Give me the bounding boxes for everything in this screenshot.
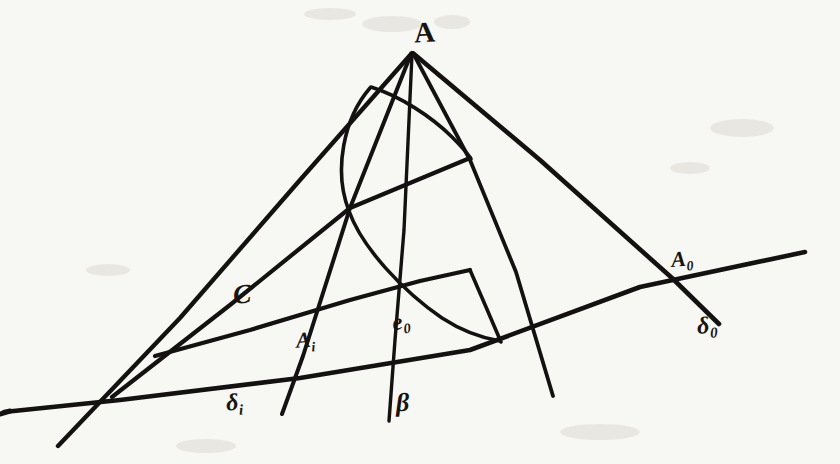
ray-apex-to-outer-point	[414, 54, 719, 324]
label-conic-tangent-e0: e0	[390, 309, 410, 334]
paper-smudges	[86, 8, 774, 453]
label-chord-c: C	[232, 280, 253, 309]
label-outer-point-sub: 0	[686, 258, 694, 274]
label-base-line-delta0: δ0	[696, 312, 717, 337]
secant-line-tail	[470, 270, 501, 342]
label-conic-tangent-base: e	[390, 309, 404, 335]
label-outer-point-a0: A0	[670, 247, 693, 271]
label-vertical-line-beta: β	[396, 390, 410, 416]
label-inner-point-base: A	[295, 327, 311, 353]
conic-arc-upper	[371, 87, 471, 159]
conic-arc-left	[342, 88, 500, 341]
ray-apex-vertical-beta	[389, 54, 412, 421]
label-inner-point-ai: Ai	[295, 328, 315, 351]
label-base-line-sub: 0	[710, 324, 719, 340]
label-base-line-base: δ	[696, 312, 710, 339]
label-apex-a: A	[413, 17, 435, 47]
label-inner-point-sub: i	[311, 339, 316, 354]
label-inner-line-base: δ	[225, 389, 239, 416]
label-inner-line-deltai: δi	[225, 390, 243, 415]
ray-apex-through-inner-point	[282, 54, 411, 414]
sketch-canvas: A C Ai e0 A0 δ0 δi β	[0, 0, 840, 464]
label-conic-tangent-sub: 0	[402, 320, 411, 337]
geometry-figure	[0, 0, 840, 464]
left-edge-tick	[0, 411, 10, 414]
label-inner-line-sub: i	[239, 402, 244, 418]
label-outer-point-base: A	[670, 246, 687, 272]
